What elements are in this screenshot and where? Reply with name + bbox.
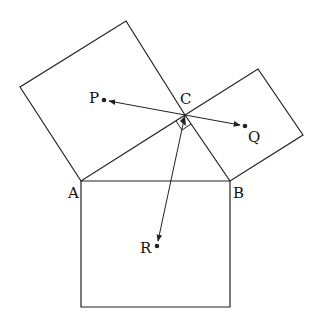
label-q: Q xyxy=(248,130,260,145)
diagram-canvas: A B C P Q R xyxy=(0,0,318,327)
label-r: R xyxy=(140,241,151,256)
arrow-c-to-q xyxy=(185,115,240,125)
point-r xyxy=(155,244,160,249)
label-a: A xyxy=(68,186,79,201)
arrow-c-to-p xyxy=(109,101,185,115)
geometry-figure xyxy=(0,0,318,327)
arrow-c-to-r xyxy=(158,115,185,241)
label-c: C xyxy=(180,92,191,107)
label-p: P xyxy=(89,91,99,106)
label-b: B xyxy=(233,186,244,201)
point-p xyxy=(102,98,107,103)
square-on-ab xyxy=(81,181,230,307)
point-q xyxy=(243,124,248,129)
